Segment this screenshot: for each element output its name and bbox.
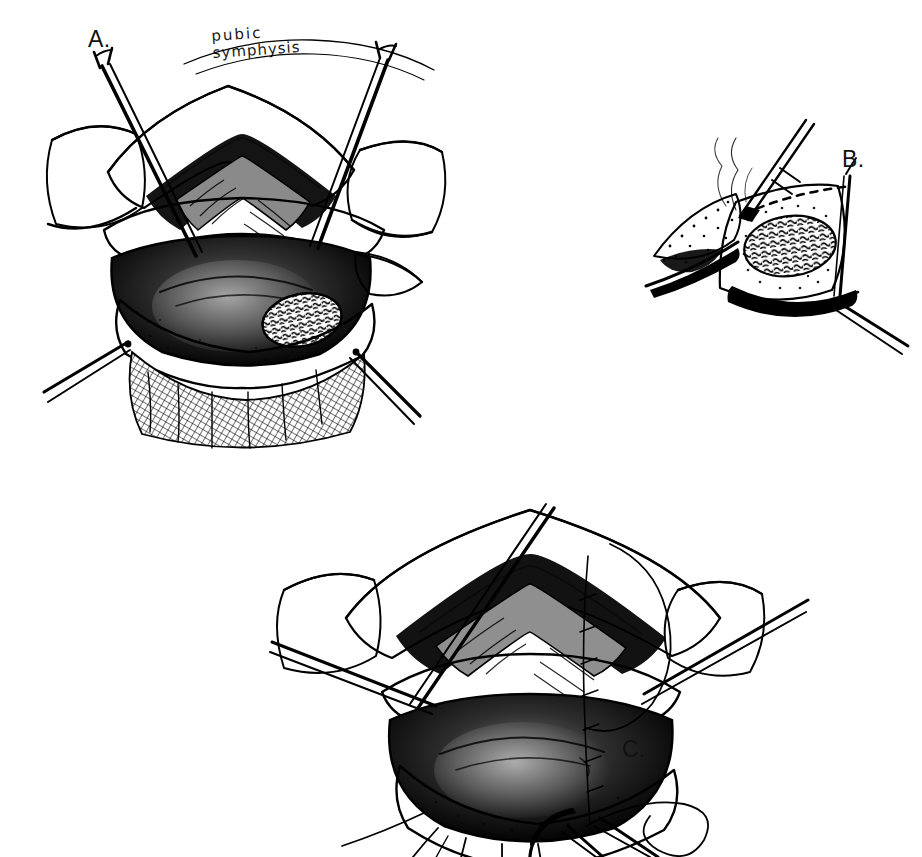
rectus-muscle-flap-left [47,126,145,228]
panel-b-label: B. [842,148,865,171]
panel-c-label: C. [622,738,646,761]
illustration-canvas: A. pubic symphysis [0,0,922,857]
bladder-wall-left-wing [646,194,741,298]
bladder-lumen-c [389,694,672,842]
electrocautery-pencil[interactable] [738,120,814,222]
papillary-tumor-b [740,210,839,282]
pubic-symphysis-contour [180,34,440,94]
panel-b-artwork [640,110,922,360]
panel-b [640,110,922,360]
panel-c [250,440,810,857]
panel-c-artwork [250,440,810,857]
rectus-muscle-flap-right-c [665,582,765,676]
clamp-instrument-b[interactable] [836,302,908,354]
rectus-muscle-flap-left-c [277,574,381,673]
dashed-resection-line [744,186,852,214]
rectus-muscle-flap-right [348,141,446,236]
panel-a-label: A. [88,28,111,51]
stay-suture-lower-left[interactable] [44,341,131,402]
